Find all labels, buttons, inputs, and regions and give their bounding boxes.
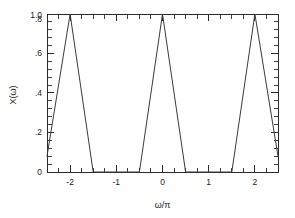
y-tick-label-5: 1.0: [30, 10, 42, 20]
y-axis-title: X(ω): [8, 85, 18, 104]
x-tick-label-4: 2: [253, 177, 258, 187]
y-tick-label-0: 0: [37, 167, 42, 177]
y-tick-label-2: .4: [35, 88, 42, 98]
data-series-X-omega: [47, 14, 278, 172]
y-tick-label-1: .2: [35, 127, 42, 137]
y-tick-label-3: .6: [35, 48, 42, 58]
x-tick-label-1: -1: [113, 177, 121, 187]
x-axis-title: ω/π: [155, 200, 171, 210]
chart-svg: 0 .2 .4 .6 .8 1.0 -2 -1 0 1 2 ω/π X(ω): [0, 0, 295, 218]
x-major-ticks: [70, 14, 255, 172]
x-tick-labels: -2 -1 0 1 2: [66, 177, 257, 187]
chart-figure: 0 .2 .4 .6 .8 1.0 -2 -1 0 1 2 ω/π X(ω): [0, 0, 295, 218]
x-tick-label-0: -2: [66, 177, 74, 187]
x-tick-label-3: 1: [206, 177, 211, 187]
triangular-spectrum-line: [47, 14, 278, 172]
y-tick-labels: 0 .2 .4 .6 .8 1.0: [30, 10, 42, 178]
x-tick-label-2: 0: [160, 177, 165, 187]
